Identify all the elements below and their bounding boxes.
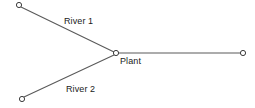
network-graph-svg bbox=[0, 0, 255, 108]
label-plant: Plant bbox=[120, 56, 141, 66]
label-river-1: River 1 bbox=[64, 16, 93, 26]
node-plant[interactable] bbox=[113, 50, 118, 55]
node-river-2-source[interactable] bbox=[19, 96, 24, 101]
node-outlet[interactable] bbox=[240, 50, 245, 55]
edge-river-1-line bbox=[21, 7, 114, 52]
river-network-diagram: River 1 River 2 Plant bbox=[0, 0, 255, 108]
node-river-1-source[interactable] bbox=[16, 2, 21, 7]
label-river-2: River 2 bbox=[66, 84, 95, 94]
